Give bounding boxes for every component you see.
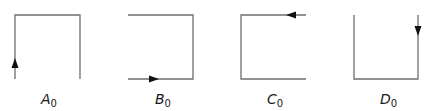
label-b: B0 [155, 91, 171, 109]
path-d [354, 15, 418, 79]
panel-b: B0 [128, 15, 193, 109]
label-a: A0 [40, 91, 57, 109]
panel-c: C0 [241, 12, 306, 110]
path-c [241, 15, 306, 79]
label-d: D0 [380, 91, 397, 109]
arrow-left-icon [286, 12, 296, 19]
path-a [15, 15, 80, 79]
arrow-up-icon [12, 58, 19, 68]
panel-d: D0 [354, 15, 422, 109]
panel-a: A0 [12, 15, 81, 109]
label-c: C0 [267, 91, 283, 109]
arrow-right-icon [149, 76, 159, 83]
path-b [128, 15, 193, 79]
path-diagram: A0 B0 C0 D0 [0, 0, 435, 111]
arrow-down-icon [415, 26, 422, 36]
